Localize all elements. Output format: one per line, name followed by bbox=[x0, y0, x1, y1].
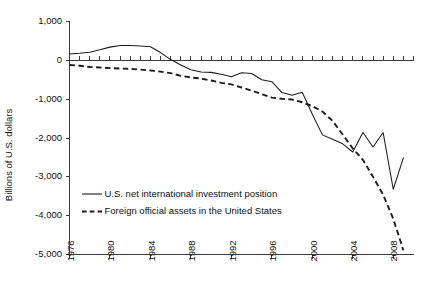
y-axis-title-group: Billions of U.S. dollars bbox=[3, 109, 14, 202]
y-tick-label: -5,000 bbox=[35, 248, 62, 259]
y-tick-label: -2,000 bbox=[35, 132, 62, 143]
legend-label: Foreign official assets in the United St… bbox=[105, 205, 283, 216]
x-tick-label: 2008 bbox=[388, 240, 399, 261]
line-chart: Billions of U.S. dollars 1,0000-1,000-2,… bbox=[0, 0, 421, 299]
y-tick-label: -4,000 bbox=[35, 209, 62, 220]
chart-legend: U.S. net international investment positi… bbox=[82, 188, 282, 217]
x-tick-label: 1988 bbox=[186, 240, 197, 261]
y-tick-label: 1,000 bbox=[38, 15, 62, 26]
legend-label: U.S. net international investment positi… bbox=[105, 188, 278, 199]
chart-figure: Billions of U.S. dollars 1,0000-1,000-2,… bbox=[0, 0, 421, 299]
x-tick-label: 1976 bbox=[65, 240, 76, 261]
y-axis-title: Billions of U.S. dollars bbox=[3, 109, 14, 202]
y-tick-label: -3,000 bbox=[35, 170, 62, 181]
x-tick-label: 1992 bbox=[227, 240, 238, 261]
x-tick-label: 1980 bbox=[105, 240, 116, 261]
y-axis-ticks: 1,0000-1,000-2,000-3,000-4,000-5,000 bbox=[35, 15, 69, 259]
x-tick-label: 1984 bbox=[146, 240, 157, 261]
series-line-solid bbox=[70, 46, 404, 190]
x-tick-label: 2000 bbox=[308, 240, 319, 261]
y-tick-label: 0 bbox=[57, 54, 62, 65]
x-tick-label: 2004 bbox=[348, 240, 359, 261]
y-tick-label: -1,000 bbox=[35, 93, 62, 104]
series-line-dashed bbox=[70, 65, 404, 250]
x-tick-label: 1996 bbox=[267, 240, 278, 261]
data-series-group bbox=[70, 46, 404, 251]
